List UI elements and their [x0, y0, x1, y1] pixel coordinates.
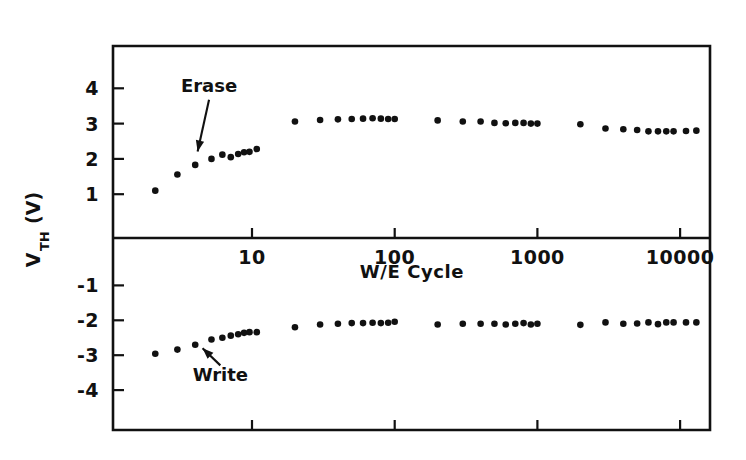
data-point — [192, 162, 199, 169]
data-point — [645, 319, 652, 326]
data-point — [292, 324, 299, 331]
data-point — [683, 319, 690, 326]
annotation-label-erase: Erase — [181, 75, 237, 96]
data-point — [152, 351, 159, 358]
y-tick-label-1: 3 — [85, 113, 99, 135]
data-point — [174, 171, 181, 178]
data-point — [434, 321, 441, 328]
data-point — [645, 128, 652, 135]
data-point — [192, 341, 199, 348]
x-tick-label-2: 1000 — [510, 246, 565, 268]
data-point — [317, 117, 324, 124]
data-point — [534, 320, 541, 327]
data-point — [385, 319, 392, 326]
data-point — [602, 125, 609, 132]
data-point — [502, 321, 509, 328]
data-point — [227, 332, 234, 339]
series-write — [152, 318, 700, 357]
data-point — [378, 320, 385, 327]
y-tick-label-2: 2 — [85, 148, 99, 170]
data-point — [335, 320, 342, 327]
data-point — [369, 319, 376, 326]
data-point — [348, 320, 355, 327]
data-point — [512, 320, 519, 327]
y-tick-label-4: -1 — [77, 274, 99, 296]
data-point — [369, 115, 376, 122]
y-tick-labels: 4321-1-2-3-4 — [77, 77, 99, 401]
data-points — [152, 115, 700, 357]
y-axis-title-main: V — [22, 252, 44, 267]
data-point — [459, 118, 466, 125]
data-point — [528, 321, 535, 328]
data-point — [253, 329, 260, 336]
data-point — [520, 120, 527, 127]
y-tick-label-0: 4 — [85, 77, 99, 99]
data-point — [385, 116, 392, 123]
y-tick-label-6: -3 — [77, 344, 99, 366]
data-point — [477, 320, 484, 327]
y-axis-title-unit: (V) — [22, 192, 44, 224]
data-point — [235, 151, 242, 158]
data-point — [292, 118, 299, 125]
data-point — [335, 116, 342, 123]
data-point — [378, 115, 385, 122]
data-point — [693, 127, 700, 134]
y-tick-label-3: 1 — [85, 183, 99, 205]
data-point — [152, 187, 159, 194]
data-point — [512, 120, 519, 127]
data-point — [491, 120, 498, 127]
data-point — [670, 319, 677, 326]
data-point — [620, 320, 627, 327]
data-point — [693, 319, 700, 326]
data-point — [348, 116, 355, 123]
data-point — [208, 336, 215, 343]
data-point — [434, 117, 441, 124]
data-point — [360, 115, 367, 122]
annotation-label-write: Write — [193, 364, 248, 385]
x-axis-title: W/E Cycle — [360, 261, 464, 282]
data-point — [491, 320, 498, 327]
data-point — [663, 128, 670, 135]
data-point — [391, 116, 398, 123]
series-erase — [152, 115, 700, 194]
data-point — [391, 318, 398, 325]
y-tick-label-5: -2 — [77, 309, 99, 331]
y-axis-title-subscript: TH — [37, 231, 52, 251]
data-point — [246, 149, 253, 156]
data-point — [253, 146, 260, 153]
data-point — [602, 319, 609, 326]
data-point — [520, 320, 527, 327]
data-point — [459, 320, 466, 327]
data-point — [534, 120, 541, 127]
data-point — [208, 156, 215, 163]
data-point — [634, 127, 641, 134]
data-point — [655, 321, 662, 328]
data-point — [174, 346, 181, 353]
figure-container: 10100100010000 4321-1-2-3-4 EraseWrite W… — [0, 0, 746, 460]
x-tick-label-3: 10000 — [646, 246, 715, 268]
x-tick-labels: 10100100010000 — [238, 246, 714, 268]
data-point — [634, 320, 641, 327]
data-point — [317, 321, 324, 328]
data-point — [227, 154, 234, 161]
data-point — [620, 126, 627, 133]
data-point — [663, 319, 670, 326]
data-point — [219, 151, 226, 158]
data-point — [670, 128, 677, 135]
data-point — [502, 120, 509, 127]
x-tick-label-0: 10 — [238, 246, 265, 268]
data-point — [235, 331, 242, 338]
data-point — [683, 128, 690, 135]
data-point — [655, 128, 662, 135]
data-point — [219, 334, 226, 341]
y-tick-label-7: -4 — [77, 379, 99, 401]
data-point — [360, 320, 367, 327]
data-point — [577, 121, 584, 128]
data-point — [528, 120, 535, 127]
data-point — [477, 118, 484, 125]
data-point — [577, 322, 584, 329]
vth-cycling-scatter-chart: 10100100010000 4321-1-2-3-4 EraseWrite W… — [0, 0, 746, 460]
y-axis-title: V TH (V) — [22, 192, 52, 267]
data-point — [246, 329, 253, 336]
